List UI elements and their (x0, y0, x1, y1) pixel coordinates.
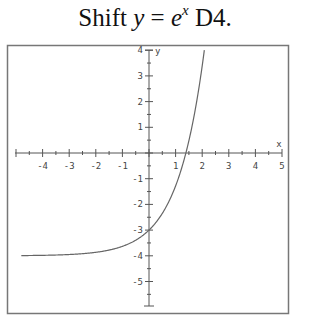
x-tick-label: 5 (279, 161, 284, 171)
y-tick-label: 4 (138, 45, 143, 55)
x-tick-label: 1 (173, 161, 178, 171)
y-tick-label: 3 (138, 71, 143, 81)
y-tick-label: -2 (132, 199, 143, 209)
y-axis-label: y (155, 46, 161, 56)
x-tick-label: 2 (199, 161, 204, 171)
y-tick-label: -1 (132, 174, 143, 184)
x-tick-label: -2 (90, 161, 101, 171)
y-tick-label: 2 (138, 97, 143, 107)
y-tick-label: 1 (138, 122, 143, 132)
x-tick-label: -1 (117, 161, 128, 171)
x-tick-label: 4 (253, 161, 258, 171)
y-tick-label: -5 (132, 277, 143, 287)
y-tick-label: -3 (132, 225, 143, 235)
y-tick-label: -4 (132, 251, 143, 261)
x-tick-label: -3 (64, 161, 75, 171)
x-tick-label: -4 (37, 161, 48, 171)
plot-frame (8, 46, 289, 314)
x-axis-label: x (276, 139, 282, 149)
x-tick-label: 3 (226, 161, 231, 171)
plot-area: -4-3-2-1123454321-1-2-3-4-5xy (0, 0, 310, 322)
